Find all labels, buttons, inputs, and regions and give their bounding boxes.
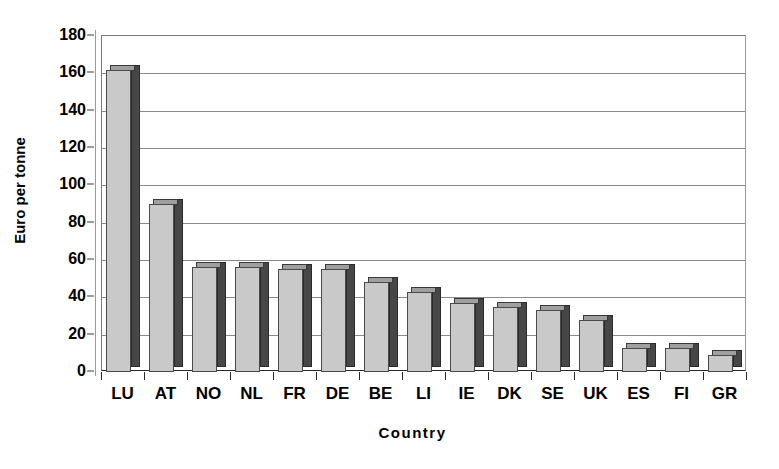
bar — [235, 261, 269, 372]
bar — [493, 301, 527, 372]
x-axis-tick-mark — [746, 372, 747, 380]
bar — [622, 342, 656, 372]
bar — [149, 198, 183, 372]
y-axis-title: Euro per tonne — [2, 0, 36, 380]
x-axis-tick-label: LU — [111, 384, 134, 404]
bar — [450, 297, 484, 372]
bar — [364, 276, 398, 372]
x-axis-tick-mark — [144, 372, 145, 380]
bar-front-face — [278, 269, 303, 372]
x-axis-tick-label: IE — [458, 384, 474, 404]
y-axis-tick-mark — [87, 333, 94, 334]
x-axis-tick-label: LI — [416, 384, 431, 404]
bar-side-face — [303, 264, 312, 367]
x-axis-tick-label: BE — [369, 384, 393, 404]
bar-side-face — [604, 315, 613, 367]
x-axis-tick-label: FI — [674, 384, 689, 404]
x-axis-title: Country — [0, 424, 779, 441]
bar-side-face — [131, 65, 140, 367]
x-axis-tick-mark — [488, 372, 489, 380]
bar-front-face — [321, 269, 346, 372]
x-axis-tick-label: NL — [240, 384, 263, 404]
bar-front-face — [407, 292, 432, 372]
y-axis-tick-label: 80 — [68, 213, 86, 231]
x-axis-tick-label: ES — [627, 384, 650, 404]
y-axis-title-text: Euro per tonne — [11, 137, 28, 244]
bar — [536, 304, 570, 372]
bar-front-face — [708, 355, 733, 372]
x-axis-tick-mark — [273, 372, 274, 380]
bar-front-face — [450, 303, 475, 372]
y-axis-tick-label: 60 — [68, 250, 86, 268]
y-axis-tick-label: 160 — [59, 63, 86, 81]
bar-side-face — [260, 262, 269, 367]
bar — [708, 349, 742, 372]
y-axis-tick-label: 180 — [59, 26, 86, 44]
x-axis-tick-mark — [660, 372, 661, 380]
bar-front-face — [235, 267, 260, 372]
y-axis-tick-label: 100 — [59, 175, 86, 193]
y-axis-tick-label: 140 — [59, 101, 86, 119]
x-axis-title-text: Country — [333, 424, 447, 441]
y-axis-tick-mark — [87, 296, 94, 297]
x-axis-tick-label: GR — [712, 384, 738, 404]
bar-front-face — [579, 320, 604, 372]
bar — [192, 261, 226, 372]
bar — [321, 263, 355, 372]
x-axis-tick-mark — [187, 372, 188, 380]
y-axis-tick-label: 120 — [59, 138, 86, 156]
y-axis-ticks: 020406080100120140160180 — [36, 0, 94, 380]
bar — [407, 286, 441, 372]
bar — [665, 342, 699, 372]
bar-side-face — [389, 277, 398, 367]
x-axis-tick-label: DE — [326, 384, 350, 404]
x-axis-tick-label: AT — [155, 384, 176, 404]
x-axis-tick-label: FR — [283, 384, 306, 404]
y-axis-tick-mark — [87, 221, 94, 222]
x-axis-tick-mark — [574, 372, 575, 380]
x-axis-labels: LUATNONLFRDEBELIIEDKSEUKESFIGR — [101, 384, 746, 410]
bar-side-face — [475, 298, 484, 367]
x-axis-tick-label: UK — [583, 384, 608, 404]
x-axis-tick-mark — [703, 372, 704, 380]
x-axis-tick-mark — [101, 372, 102, 380]
bar-side-face — [561, 305, 570, 367]
x-axis-tick-mark — [531, 372, 532, 380]
bar-chart: Euro per tonne 020406080100120140160180 … — [0, 0, 779, 469]
bar — [579, 314, 613, 372]
bar-side-face — [432, 287, 441, 367]
y-axis-tick-mark — [87, 72, 94, 73]
x-axis-tick-label: SE — [541, 384, 564, 404]
y-axis-tick-label: 0 — [77, 362, 86, 380]
x-axis-tick-mark — [617, 372, 618, 380]
bars-layer — [101, 35, 746, 372]
y-axis-tick-mark — [87, 35, 94, 36]
bar-side-face — [346, 264, 355, 367]
x-axis-tick-mark — [402, 372, 403, 380]
bar-side-face — [174, 199, 183, 367]
y-axis-tick-mark — [87, 259, 94, 260]
y-axis-tick-mark — [87, 109, 94, 110]
bar-front-face — [493, 307, 518, 372]
x-axis-tick-label: NO — [196, 384, 222, 404]
bar — [278, 263, 312, 372]
y-axis-tick-mark — [87, 147, 94, 148]
bar-front-face — [622, 348, 647, 372]
x-axis-tick-mark — [445, 372, 446, 380]
y-axis-tick-label: 20 — [68, 325, 86, 343]
bar-side-face — [518, 302, 527, 367]
bar — [106, 64, 140, 372]
bar-front-face — [364, 282, 389, 372]
x-axis-tick-mark — [230, 372, 231, 380]
bar-front-face — [536, 310, 561, 372]
y-axis-tick-mark — [87, 371, 94, 372]
bar-front-face — [106, 70, 131, 372]
bar-front-face — [192, 267, 217, 372]
bar-front-face — [665, 348, 690, 372]
x-axis-tick-mark — [316, 372, 317, 380]
x-axis-tick-mark — [359, 372, 360, 380]
bar-side-face — [217, 262, 226, 367]
y-axis-tick-mark — [87, 184, 94, 185]
x-axis-tick-label: DK — [497, 384, 522, 404]
y-axis-tick-label: 40 — [68, 287, 86, 305]
